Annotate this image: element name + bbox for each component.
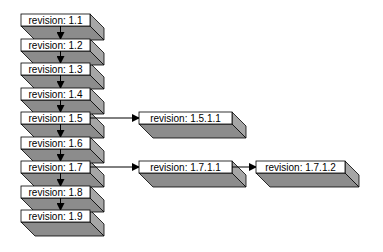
node-revision-1.4[interactable]: revision: 1.4: [21, 88, 90, 100]
node-revision-1.9[interactable]: revision: 1.9: [21, 210, 90, 222]
node-label: revision: 1.9: [29, 211, 83, 222]
node-revision-1.8[interactable]: revision: 1.8: [21, 186, 90, 198]
node-label: revision: 1.1: [29, 15, 83, 26]
node-label: revision: 1.2: [29, 40, 83, 51]
node-revision-1.1[interactable]: revision: 1.1: [21, 14, 90, 26]
node-label: revision: 1.3: [29, 64, 83, 75]
node-revision-1.6[interactable]: revision: 1.6: [21, 137, 90, 149]
node-revision-1.7[interactable]: revision: 1.7: [21, 161, 90, 173]
node-label: revision: 1.4: [29, 89, 83, 100]
node-shadow-bottom: [139, 173, 246, 187]
node-revision-1.5[interactable]: revision: 1.5: [21, 112, 90, 124]
node-revision-1.3[interactable]: revision: 1.3: [21, 63, 90, 75]
node-revision-1.2[interactable]: revision: 1.2: [21, 39, 90, 51]
revision-tree-diagram: revision: 1.1revision: 1.2revision: 1.3r…: [0, 0, 383, 252]
node-label: revision: 1.8: [29, 187, 83, 198]
node-revision-1.7.1.2[interactable]: revision: 1.7.1.2: [256, 161, 345, 173]
node-shadow-bottom: [256, 173, 359, 187]
node-revision-1.5.1.1[interactable]: revision: 1.5.1.1: [139, 112, 232, 124]
node-revision-1.7.1.1[interactable]: revision: 1.7.1.1: [139, 161, 232, 173]
node-label: revision: 1.7.1.2: [265, 162, 336, 173]
node-label: revision: 1.6: [29, 138, 83, 149]
node-label: revision: 1.5.1.1: [150, 113, 221, 124]
node-label: revision: 1.5: [29, 113, 83, 124]
node-shadow-bottom: [139, 124, 246, 138]
node-label: revision: 1.7: [29, 162, 83, 173]
node-label: revision: 1.7.1.1: [150, 162, 221, 173]
